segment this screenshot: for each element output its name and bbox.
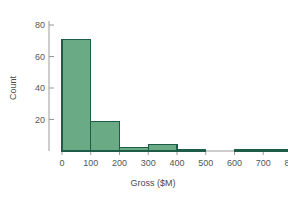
y-axis-tick-label: 40 <box>35 83 45 93</box>
histogram-plot: 20406080 0100200300400500600700800 Gross… <box>0 0 288 197</box>
x-axis-tick-label: 500 <box>198 158 213 168</box>
x-axis-tick-label: 400 <box>169 158 184 168</box>
histogram-bar <box>235 149 264 151</box>
y-axis-tick-label: 20 <box>35 115 45 125</box>
histogram-bar <box>148 145 177 151</box>
x-axis-tick-label: 800 <box>284 158 288 168</box>
histogram-bar <box>263 149 288 151</box>
histogram-figure: 20406080 0100200300400500600700800 Gross… <box>0 0 288 197</box>
x-axis-title: Gross ($M) <box>131 178 176 188</box>
y-axis-title: Count <box>8 76 18 101</box>
histogram-bar <box>62 39 91 151</box>
y-axis-tick-label: 60 <box>35 52 45 62</box>
x-axis-tick-label: 300 <box>141 158 156 168</box>
histogram-bar <box>177 149 206 151</box>
x-axis-tick-label: 200 <box>112 158 127 168</box>
y-axis-tick-label: 80 <box>35 20 45 30</box>
histogram-bar <box>120 148 149 151</box>
x-axis-tick-label: 700 <box>256 158 271 168</box>
x-axis-tick-label: 100 <box>83 158 98 168</box>
x-axis-tick-label: 600 <box>227 158 242 168</box>
x-axis-tick-label: 0 <box>59 158 64 168</box>
histogram-bar <box>91 121 120 151</box>
